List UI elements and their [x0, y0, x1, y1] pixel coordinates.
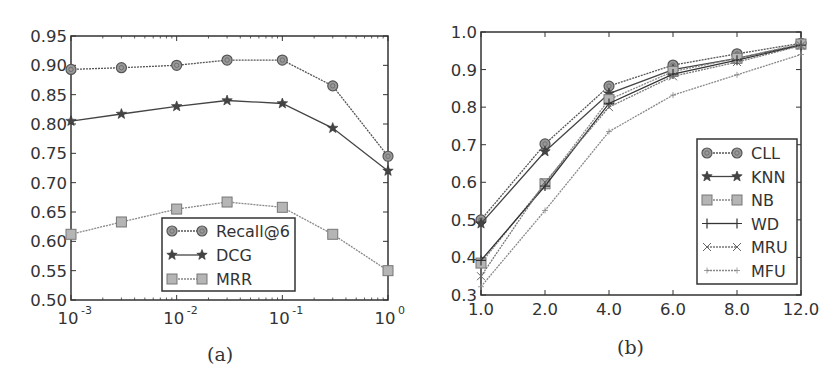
x-tick-exponent: -2: [187, 304, 198, 317]
x-tick-label: 4.0: [596, 300, 622, 319]
y-tick-label: 0.6: [451, 173, 477, 192]
chart-a-recall-dcg-mrr: 0.500.550.600.650.700.750.800.850.900.95…: [30, 27, 405, 328]
legend-label: DCG: [216, 246, 252, 265]
figure-canvas: 0.500.550.600.650.700.750.800.850.900.95…: [0, 0, 840, 388]
legend: CLLKNNNBWDMRUMFU: [697, 139, 797, 284]
square-marker-icon: [222, 197, 232, 207]
y-tick-label: 0.70: [30, 174, 67, 193]
y-tick-label: 0.8: [451, 98, 477, 117]
square-marker-icon: [732, 195, 742, 205]
caption-a: (a): [207, 343, 233, 365]
circle-marker-icon: [702, 148, 712, 158]
x-tick-label: 10: [163, 309, 184, 328]
circle-marker-icon: [197, 226, 207, 236]
circle-marker-icon: [328, 81, 338, 91]
y-tick-label: 0.65: [30, 203, 67, 222]
legend-label: KNN: [751, 168, 785, 187]
circle-marker-icon: [277, 55, 287, 65]
square-marker-icon: [167, 274, 177, 284]
x-tick-label: 10: [58, 309, 79, 328]
circle-marker-icon: [732, 148, 742, 158]
y-tick-label: 1.0: [451, 23, 477, 42]
legend: Recall@6DCGMRR: [162, 218, 295, 291]
y-tick-label: 0.80: [30, 115, 67, 134]
square-marker-icon: [383, 266, 393, 276]
circle-marker-icon: [167, 226, 177, 236]
square-marker-icon: [277, 202, 287, 212]
circle-marker-icon: [172, 60, 182, 70]
x-tick-label: 10: [375, 309, 396, 328]
y-tick-label: 0.50: [30, 291, 67, 310]
y-tick-label: 0.60: [30, 232, 67, 251]
y-tick-label: 0.85: [30, 86, 67, 105]
circle-marker-icon: [116, 63, 126, 73]
y-tick-label: 0.75: [30, 144, 67, 163]
y-tick-label: 0.90: [30, 56, 67, 75]
y-tick-label: 0.95: [30, 27, 67, 46]
square-marker-icon: [172, 204, 182, 214]
y-tick-label: 0.4: [451, 248, 477, 267]
legend-label: MRR: [216, 270, 252, 289]
square-marker-icon: [328, 229, 338, 239]
legend-label: Recall@6: [216, 222, 290, 241]
square-marker-icon: [197, 274, 207, 284]
x-tick-label: 1.0: [468, 300, 494, 319]
square-marker-icon: [66, 229, 76, 239]
square-marker-icon: [702, 195, 712, 205]
x-tick-exponent: -3: [81, 304, 92, 317]
x-tick-label: 2.0: [532, 300, 558, 319]
x-tick-label: 10: [269, 309, 290, 328]
y-tick-label: 0.55: [30, 262, 67, 281]
circle-marker-icon: [66, 64, 76, 74]
x-tick-exponent: -1: [292, 304, 303, 317]
x-tick-label: 8.0: [724, 300, 750, 319]
x-tick-label: 6.0: [660, 300, 686, 319]
y-tick-label: 0.5: [451, 211, 477, 230]
circle-marker-icon: [383, 151, 393, 161]
y-tick-label: 0.9: [451, 61, 477, 80]
y-tick-label: 0.7: [451, 136, 477, 155]
x-tick-label: 12.0: [783, 300, 820, 319]
legend-label: MRU: [751, 238, 788, 257]
legend-label: CLL: [751, 144, 780, 163]
legend-label: WD: [751, 215, 779, 234]
legend-label: NB: [751, 191, 774, 210]
x-tick-exponent: 0: [398, 304, 405, 317]
circle-marker-icon: [222, 55, 232, 65]
caption-b: (b): [617, 336, 644, 358]
legend-label: MFU: [751, 262, 786, 281]
chart-b-method-comparison: 0.30.40.50.60.70.80.91.01.02.04.06.08.01…: [451, 23, 820, 319]
square-marker-icon: [116, 217, 126, 227]
